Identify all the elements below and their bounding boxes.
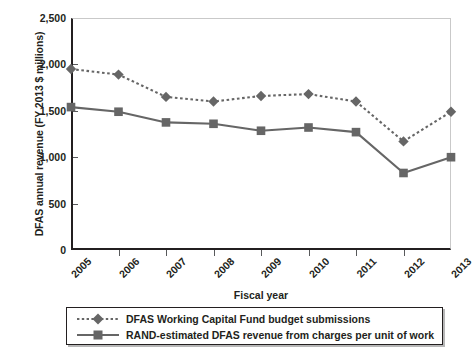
x-tick-mark [356,250,357,256]
x-tick-mark [166,250,167,256]
y-axis-tick-labels: 05001,0001,5002,0002,500 [0,0,66,354]
legend-label-1: RAND-estimated DFAS revenue from charges… [126,329,434,341]
x-axis-title: Fiscal year [71,289,451,301]
x-tick-label: 2007 [152,255,189,292]
y-tick-label: 2,000 [6,58,66,70]
y-tick-label: 1,000 [6,151,66,163]
legend-item-0: DFAS Working Capital Fund budget submiss… [76,311,370,327]
legend-label-0: DFAS Working Capital Fund budget submiss… [126,313,370,325]
y-tick-label: 500 [6,198,66,210]
plot-area [71,18,451,250]
x-tick-label: 2011 [342,255,379,292]
x-tick-label: 2010 [294,255,331,292]
x-tick-mark [261,250,262,256]
x-tick-mark [309,250,310,256]
x-tick-mark [404,250,405,256]
legend-marker-diamond-dotted [76,312,120,326]
y-tick-label: 1,500 [6,105,66,117]
x-tick-label: 2013 [437,255,474,292]
x-tick-label: 2006 [104,255,141,292]
legend-marker-square-solid [76,328,120,342]
x-tick-label: 2009 [247,255,284,292]
x-tick-mark [214,250,215,256]
x-tick-label: 2008 [199,255,236,292]
legend-item-1: RAND-estimated DFAS revenue from charges… [76,327,434,343]
x-tick-mark [119,250,120,256]
y-tick-label: 2,500 [6,12,66,24]
legend: DFAS Working Capital Fund budget submiss… [66,307,443,345]
y-tick-label: 0 [6,244,66,256]
x-tick-label: 2012 [389,255,426,292]
